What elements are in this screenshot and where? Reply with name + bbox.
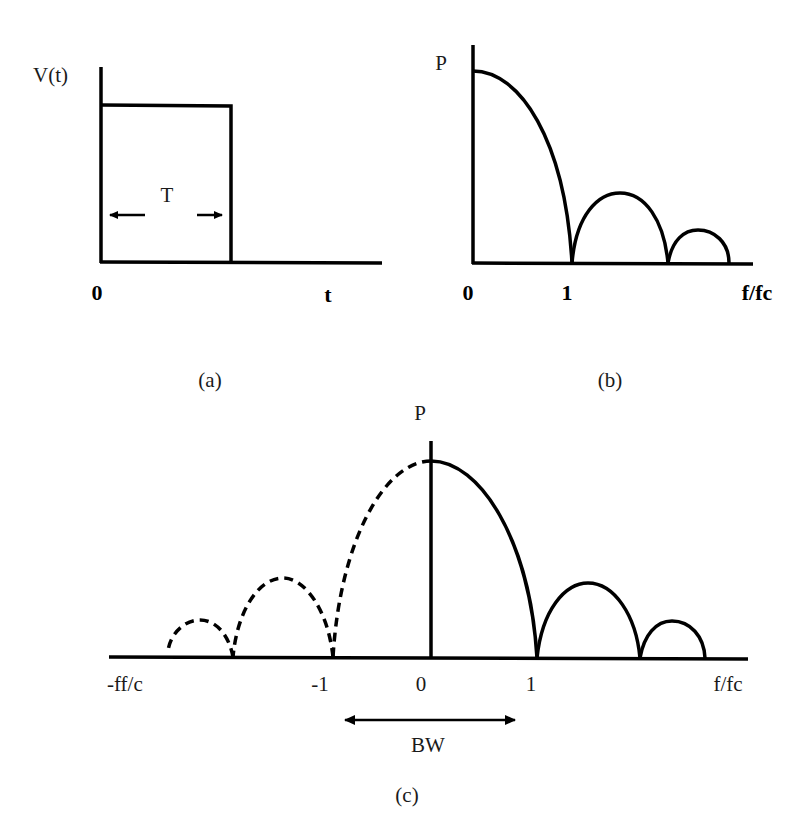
panel-a-caption: (a) xyxy=(198,368,221,392)
panel-c-tick-1: 1 xyxy=(526,672,537,696)
panel-b-y-label: P xyxy=(435,51,447,75)
panel-a-width-label: T xyxy=(161,183,174,207)
panel-a-origin-label: 0 xyxy=(92,280,103,305)
panel-c-x-label-left: -ff/c xyxy=(107,672,143,696)
panel-c-sidelobe-2-negative xyxy=(168,620,233,657)
panel-b-tick-1: 1 xyxy=(562,280,573,305)
panel-c-spectrum xyxy=(109,441,748,720)
panel-b-x-label: f/fc xyxy=(742,280,773,305)
panel-b-sidelobe-1 xyxy=(572,193,668,263)
panel-c-sidelobe-1-positive xyxy=(537,583,640,658)
panel-b-x-axis xyxy=(472,263,753,264)
panel-b-caption: (b) xyxy=(598,368,623,392)
panel-a-y-label: V(t) xyxy=(33,63,68,87)
panel-a-x-axis xyxy=(100,262,382,263)
panel-c-sidelobe-1-negative xyxy=(233,578,333,657)
panel-c-main-lobe-negative xyxy=(333,461,431,657)
panel-b-spectrum xyxy=(472,45,753,264)
panel-c-x-label-right: f/fc xyxy=(713,672,742,696)
panel-c-y-label: P xyxy=(414,401,426,425)
panel-c-bandwidth-label: BW xyxy=(411,733,445,757)
panel-c-main-lobe-positive xyxy=(431,461,537,658)
panel-c-caption: (c) xyxy=(395,783,418,807)
panel-c-sidelobe-2-positive xyxy=(640,621,705,658)
panel-c-x-axis xyxy=(109,657,748,659)
panel-b-sidelobe-2 xyxy=(668,230,729,263)
panel-a-pulse xyxy=(100,67,382,263)
panel-c-tick-0: 0 xyxy=(416,672,427,696)
panel-b-main-lobe xyxy=(473,71,572,263)
panel-b-tick-0: 0 xyxy=(463,280,474,305)
diagram-canvas: V(t) T 0 t (a) P 0 1 f/fc (b) P -ff/c -1… xyxy=(0,0,798,839)
panel-c-tick-neg1: -1 xyxy=(311,672,329,696)
panel-a-x-label: t xyxy=(324,282,332,307)
